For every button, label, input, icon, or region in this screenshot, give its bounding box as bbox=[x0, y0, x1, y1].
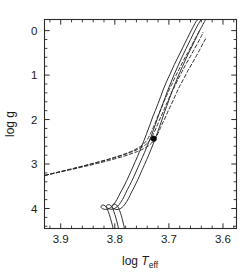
x-tick-label: 3.7 bbox=[161, 233, 177, 245]
kiel-diagram-figure: 3.93.83.73.6 01234 log Teff log g bbox=[0, 0, 252, 275]
y-tick-label: 4 bbox=[31, 203, 38, 215]
y-axis-title: log g bbox=[3, 111, 17, 137]
y-tick-label: 1 bbox=[31, 69, 37, 81]
y-tick-label: 3 bbox=[31, 158, 37, 170]
marker-observed-star bbox=[151, 136, 157, 142]
x-tick-label: 3.8 bbox=[107, 233, 123, 245]
y-tick-label: 2 bbox=[31, 114, 37, 126]
svg-text:log g: log g bbox=[3, 111, 17, 137]
x-tick-label: 3.9 bbox=[53, 233, 69, 245]
plot-svg: 3.93.83.73.6 01234 log Teff log g bbox=[0, 0, 252, 275]
y-tick-label: 0 bbox=[31, 25, 37, 37]
data-point-markers bbox=[151, 136, 157, 142]
x-tick-label: 3.6 bbox=[215, 233, 231, 245]
